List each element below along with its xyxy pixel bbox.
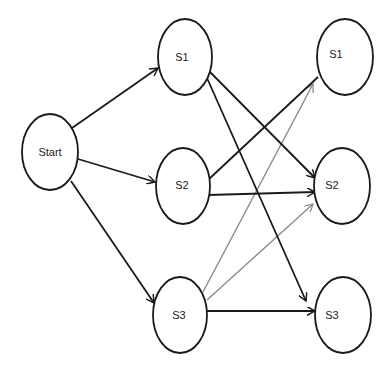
node-start-label: Start [38,146,61,158]
node-s2-left-label: S2 [175,179,188,191]
node-s1-left-label: S1 [175,51,188,63]
node-s2-right-label: S2 [325,179,338,191]
node-s2-right-shape [314,148,370,224]
edge-s1-to-s3-right [207,78,306,301]
state-diagram: Start S1 S2 S3 S1 S2 S3 [0,0,384,371]
node-s3-right-label: S3 [325,309,338,321]
node-s1-right: S1 [317,19,373,95]
node-s2-right: S2 [314,148,370,224]
node-s3-right-shape [315,277,371,353]
node-s1-right-label: S1 [329,48,342,60]
edge-s2-to-s2-right [208,192,315,195]
node-s1-right-shape [317,19,373,95]
edge-s3-to-s1-right [203,84,313,292]
node-start: Start [22,114,78,190]
node-s3-right: S3 [315,277,371,353]
edge-start-to-s2 [78,159,155,182]
node-s3-left: S3 [153,277,207,353]
edge-s3-to-s2-right [207,204,313,300]
edge-start-to-s3 [71,181,154,303]
node-s2-left: S2 [156,148,210,224]
edge-s1-to-s2-right [210,72,315,178]
node-s3-left-label: S3 [172,309,185,321]
node-s1-left: S1 [158,19,212,95]
edge-start-to-s1 [72,68,158,128]
